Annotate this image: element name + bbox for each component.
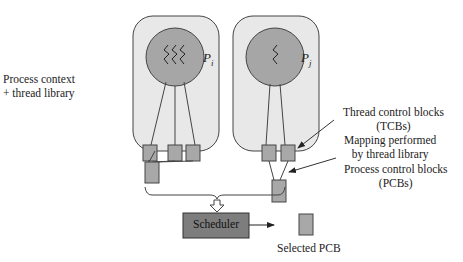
process-name: P: [203, 50, 211, 65]
mapping-arrow: [289, 158, 336, 172]
tcb-annotation: Thread control blocks (TCBs): [343, 105, 444, 133]
label-line: Process context: [3, 72, 75, 86]
process-name: P: [301, 50, 309, 65]
brace: [145, 187, 285, 199]
process-subscript: i: [211, 58, 214, 68]
down-arrow-icon: [210, 200, 224, 212]
selected-pcb-label: Selected PCB: [277, 241, 341, 255]
process-subscript: j: [309, 58, 312, 68]
process-i-label: Pi: [203, 51, 213, 70]
tcb-block: [143, 145, 157, 161]
process-j-label: Pj: [301, 51, 311, 70]
label-line: Thread control blocks: [343, 105, 444, 119]
label-line: (PCBs): [344, 176, 447, 190]
label-line: (TCBs): [343, 119, 444, 133]
tcb-block: [262, 145, 276, 161]
pcb-annotation: Process control blocks (PCBs): [344, 162, 447, 190]
label-line: by thread library: [344, 147, 436, 161]
process-i-circle: [146, 28, 204, 86]
tcb-block: [186, 145, 200, 161]
selected-pcb-block: [299, 214, 313, 235]
process-i-box: [133, 16, 219, 161]
label-line: Mapping performed: [344, 133, 436, 147]
tcb-block: [168, 145, 182, 161]
label-line: Process control blocks: [344, 162, 447, 176]
scheduler-label: Scheduler: [183, 218, 249, 230]
pcb-block-i: [145, 162, 159, 183]
label-line: + thread library: [3, 86, 75, 100]
tcb-block: [281, 145, 295, 161]
mapping-annotation: Mapping performed by thread library: [344, 133, 436, 161]
process-j-box: [233, 16, 319, 161]
process-context-label: Process context + thread library: [3, 72, 75, 100]
